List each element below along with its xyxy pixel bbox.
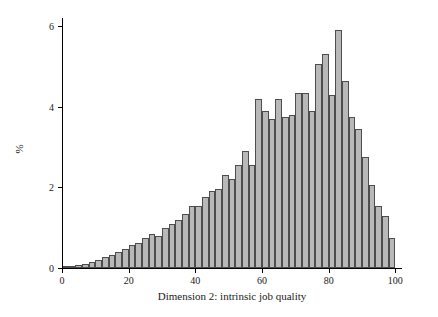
histogram-bar	[329, 95, 336, 268]
histogram-bar	[215, 189, 222, 268]
histogram-bar	[382, 216, 389, 268]
histogram-bar	[369, 185, 376, 268]
histogram-bar	[229, 179, 236, 268]
histogram-bar	[362, 157, 369, 268]
histogram-bar	[149, 234, 156, 268]
histogram-bar	[322, 54, 329, 268]
histogram-chart: 020406080100 0246 Dimension 2: intrinsic…	[0, 0, 438, 317]
x-tick-mark	[62, 269, 63, 273]
histogram-bar	[255, 99, 262, 268]
histogram-bar	[389, 238, 396, 268]
x-tick-label: 0	[60, 275, 65, 286]
histogram-bar	[95, 260, 102, 268]
histogram-bar	[335, 30, 342, 268]
y-tick-mark	[58, 107, 62, 108]
histogram-bar	[349, 117, 356, 268]
histogram-bar	[175, 220, 182, 268]
x-tick-mark	[329, 269, 330, 273]
histogram-bar	[309, 111, 316, 268]
histogram-bar	[355, 129, 362, 268]
y-tick-label: 0	[42, 263, 54, 274]
y-tick-mark	[58, 26, 62, 27]
histogram-bar	[182, 214, 189, 268]
histogram-bar	[235, 165, 242, 268]
histogram-bar	[302, 93, 309, 268]
histogram-bar	[242, 151, 249, 268]
histogram-bar	[262, 111, 269, 268]
histogram-bar	[162, 228, 169, 268]
y-tick-label: 6	[42, 21, 54, 32]
histogram-bar	[115, 252, 122, 268]
histogram-bar	[209, 191, 216, 268]
histogram-bar	[269, 119, 276, 268]
x-tick-label: 80	[324, 275, 334, 286]
histogram-bar	[189, 206, 196, 269]
histogram-bar	[342, 81, 349, 269]
histogram-bar	[222, 175, 229, 268]
y-tick-mark	[58, 268, 62, 269]
y-axis-line	[62, 18, 63, 268]
histogram-bar	[249, 165, 256, 268]
x-tick-label: 40	[190, 275, 200, 286]
histogram-bar	[129, 245, 136, 268]
y-tick-label: 4	[42, 101, 54, 112]
histogram-bar	[275, 99, 282, 268]
histogram-bar	[295, 93, 302, 268]
y-tick-mark	[58, 187, 62, 188]
histogram-bar	[102, 257, 109, 268]
histogram-bar	[289, 115, 296, 268]
x-tick-mark	[195, 269, 196, 273]
x-tick-label: 60	[257, 275, 267, 286]
x-axis-title: Dimension 2: intrinsic job quality	[62, 290, 402, 302]
histogram-bar	[155, 236, 162, 268]
histogram-bar	[202, 197, 209, 268]
histogram-bar	[375, 206, 382, 269]
x-tick-mark	[395, 269, 396, 273]
x-tick-label: 100	[388, 275, 403, 286]
x-tick-label: 20	[124, 275, 134, 286]
y-axis-title: %	[13, 144, 25, 153]
histogram-bar	[135, 243, 142, 268]
y-tick-label: 2	[42, 182, 54, 193]
histogram-bar	[109, 255, 116, 268]
plot-area	[62, 18, 402, 268]
histogram-bar	[142, 238, 149, 268]
histogram-bar	[169, 224, 176, 268]
histogram-bar	[315, 64, 322, 268]
histogram-bar	[195, 206, 202, 269]
histogram-bar	[282, 117, 289, 268]
histogram-bar	[122, 249, 129, 268]
bar-series	[62, 18, 402, 268]
x-tick-mark	[262, 269, 263, 273]
x-axis-line	[62, 268, 402, 269]
x-tick-mark	[129, 269, 130, 273]
